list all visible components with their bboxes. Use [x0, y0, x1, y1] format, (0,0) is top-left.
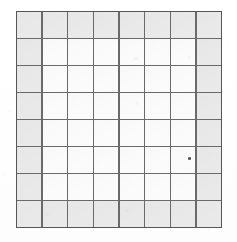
- grid-cell[interactable]: [43, 12, 67, 38]
- grid-cell[interactable]: [120, 120, 144, 146]
- grid-cell[interactable]: [145, 174, 169, 200]
- grid-cell[interactable]: [171, 12, 195, 38]
- grid-cell[interactable]: [17, 120, 41, 146]
- grid-cell[interactable]: [120, 93, 144, 119]
- grid-cell[interactable]: [145, 201, 169, 227]
- grid-cell[interactable]: [17, 93, 41, 119]
- grid-cell[interactable]: [94, 66, 118, 92]
- grid-cell[interactable]: [43, 174, 67, 200]
- grid-cell[interactable]: [17, 39, 41, 65]
- grid-cell[interactable]: [171, 147, 195, 173]
- grid-container: [16, 11, 222, 228]
- grid-cell[interactable]: [43, 147, 67, 173]
- grid-cell[interactable]: [68, 66, 92, 92]
- grid-cell[interactable]: [197, 147, 221, 173]
- grid-cell[interactable]: [17, 201, 41, 227]
- grid-cell[interactable]: [43, 93, 67, 119]
- grid-cell[interactable]: [171, 93, 195, 119]
- grid-cell[interactable]: [43, 120, 67, 146]
- grid-cell[interactable]: [120, 66, 144, 92]
- grid-cell[interactable]: [68, 39, 92, 65]
- grid-cell[interactable]: [120, 147, 144, 173]
- grid-cell[interactable]: [171, 66, 195, 92]
- grid-cell[interactable]: [94, 174, 118, 200]
- grid-cell[interactable]: [145, 12, 169, 38]
- grid-cell[interactable]: [68, 12, 92, 38]
- grid-cell[interactable]: [43, 39, 67, 65]
- grid-cell[interactable]: [120, 201, 144, 227]
- grid-cell[interactable]: [17, 147, 41, 173]
- 8x8-grid[interactable]: [16, 11, 222, 228]
- grid-cell[interactable]: [43, 66, 67, 92]
- grid-cell[interactable]: [120, 174, 144, 200]
- grid-cell[interactable]: [197, 120, 221, 146]
- grid-cell[interactable]: [68, 147, 92, 173]
- grid-cell[interactable]: [145, 39, 169, 65]
- grid-cell[interactable]: [68, 201, 92, 227]
- grid-cell[interactable]: [94, 39, 118, 65]
- grid-cell[interactable]: [94, 201, 118, 227]
- grid-cell[interactable]: [197, 93, 221, 119]
- grid-cell[interactable]: [171, 201, 195, 227]
- grid-cell[interactable]: [94, 93, 118, 119]
- grid-cell[interactable]: [120, 12, 144, 38]
- grid-cell[interactable]: [94, 147, 118, 173]
- grid-cell[interactable]: [68, 120, 92, 146]
- grid-cell[interactable]: [94, 12, 118, 38]
- grid-cell[interactable]: [197, 66, 221, 92]
- grid-cell[interactable]: [197, 12, 221, 38]
- grid-cell[interactable]: [145, 147, 169, 173]
- grid-cell[interactable]: [197, 39, 221, 65]
- grid-cell[interactable]: [68, 174, 92, 200]
- grid-cell[interactable]: [120, 39, 144, 65]
- grid-cell[interactable]: [145, 93, 169, 119]
- grid-cell[interactable]: [17, 12, 41, 38]
- grid-cell[interactable]: [197, 201, 221, 227]
- grid-cell[interactable]: [94, 120, 118, 146]
- grid-cell[interactable]: [17, 66, 41, 92]
- grid-cell[interactable]: [171, 120, 195, 146]
- grid-cell[interactable]: [171, 174, 195, 200]
- grid-cell[interactable]: [17, 174, 41, 200]
- grid-cell[interactable]: [145, 66, 169, 92]
- grid-cell[interactable]: [171, 39, 195, 65]
- grid-cell[interactable]: [68, 93, 92, 119]
- grid-cell[interactable]: [43, 201, 67, 227]
- grid-cell[interactable]: [145, 120, 169, 146]
- grid-cell[interactable]: [197, 174, 221, 200]
